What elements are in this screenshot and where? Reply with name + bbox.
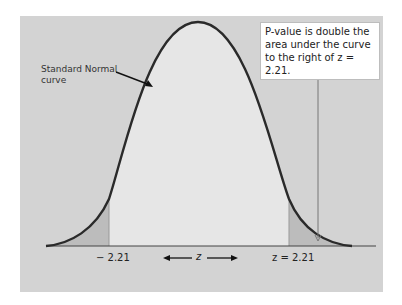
z-axis-label: z [196,251,201,262]
curve-label: Standard Normal curve [41,64,121,86]
right-critical-label: z = 2.21 [272,252,314,263]
p-value-callout: P-value is double the area under the cur… [260,22,380,80]
left-tail-area [46,199,109,246]
curve-label-arrow [116,72,150,85]
right-tail-area [289,199,352,246]
left-critical-label: − 2.21 [96,252,130,263]
